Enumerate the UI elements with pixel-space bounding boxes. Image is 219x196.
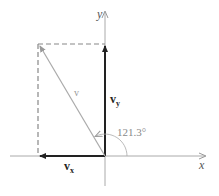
vector-v [40, 46, 105, 156]
vx-subscript: x [70, 166, 74, 175]
angle-label: 121.3° [117, 127, 146, 138]
vector-vx-label: vx [64, 160, 74, 175]
vector-components-diagram: y x v vy vx 121.3° [0, 0, 219, 196]
vector-v-label: v [74, 88, 79, 98]
vector-vy-label: vy [110, 93, 120, 108]
y-axis-label: y [97, 8, 102, 20]
x-axis-label: x [199, 159, 204, 171]
vy-subscript: y [116, 99, 120, 108]
